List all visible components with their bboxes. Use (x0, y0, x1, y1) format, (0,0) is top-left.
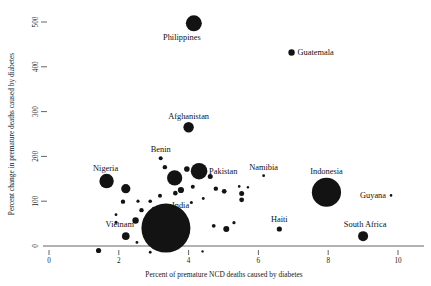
bubble-unlabeled-04 (184, 166, 190, 172)
y-axis-tick-label: 0 (32, 244, 40, 248)
x-axis-tick-label: 0 (47, 257, 51, 265)
y-axis-tick-label: 100 (32, 195, 40, 206)
bubble-unlabeled-19 (232, 221, 235, 224)
label-pakistan: Pakistan (209, 167, 238, 176)
bubble-unlabeled-18 (212, 224, 216, 228)
bubble-unlabeled-07 (191, 185, 195, 189)
y-axis-tick-label: 300 (32, 106, 40, 117)
bubble-unlabeled-03 (163, 165, 167, 169)
y-axis-tick-label: 200 (32, 151, 40, 162)
bubble-nigeria (99, 174, 113, 188)
bubble-south-africa (358, 231, 368, 241)
bubble-unlabeled-20 (223, 226, 229, 232)
bubble-unlabeled-25 (247, 186, 249, 188)
bubble-unlabeled-32 (115, 213, 118, 216)
bubble-chart-figure: 01002003004005000246810 PhilippinesGuate… (0, 0, 431, 286)
bubble-india (141, 204, 190, 253)
bubble-haiti (277, 226, 282, 231)
bubble-unlabeled-08 (178, 187, 184, 193)
bubble-unlabeled-12 (136, 200, 139, 203)
bubble-guatemala (288, 49, 294, 55)
x-axis-tick-label: 2 (117, 257, 121, 265)
label-namibia: Namibia (249, 163, 278, 172)
bubble-unlabeled-23 (239, 191, 244, 196)
bubble-unlabeled-27 (96, 248, 101, 253)
bubble-unlabeled-30 (190, 201, 193, 204)
label-haiti: Haiti (271, 215, 288, 224)
label-benin: Benin (151, 145, 172, 154)
bubble-unlabeled-10 (158, 194, 162, 198)
x-axis-tick-label: 8 (326, 257, 330, 265)
y-axis-title: Percent change in premature deaths cause… (7, 53, 16, 215)
y-axis-tick-label: 400 (32, 61, 40, 72)
bubble-unlabeled-29 (201, 250, 203, 252)
bubble-vietnam (122, 232, 130, 240)
label-india: India (172, 201, 189, 210)
scatter-plot-canvas: 01002003004005000246810 PhilippinesGuate… (0, 0, 431, 286)
y-axis-tick-label: 500 (32, 16, 40, 27)
bubble-unlabeled-09 (173, 191, 178, 196)
x-axis-title: Percent of premature NCD deaths caused b… (145, 270, 303, 279)
bubble-unlabeled-28 (149, 251, 152, 254)
bubble-unlabeled-02 (121, 184, 130, 193)
bubble-benin (159, 156, 163, 160)
label-guyana: Guyana (360, 191, 386, 200)
bubble-unlabeled-14 (139, 208, 143, 212)
bubble-unlabeled-24 (239, 197, 244, 202)
bubble-unlabeled-22 (238, 185, 241, 188)
bubble-pakistan (191, 163, 208, 180)
bubble-unlabeled-21 (222, 189, 227, 194)
bubble-unlabeled-01 (167, 170, 182, 185)
bubble-indonesia (312, 178, 341, 207)
label-south-africa: South Africa (344, 220, 387, 229)
x-axis-tick-label: 4 (187, 257, 191, 265)
bubble-unlabeled-06 (214, 186, 218, 190)
bubble-unlabeled-11 (148, 199, 152, 203)
bubble-guyana (390, 194, 393, 197)
bubble-unlabeled-31 (202, 197, 205, 200)
label-philippines: Philippines (163, 33, 201, 42)
label-nigeria: Nigeria (93, 164, 118, 173)
bubble-namibia (262, 174, 265, 177)
label-guatemala: Guatemala (298, 48, 335, 57)
bubble-unlabeled-26 (136, 241, 139, 244)
label-afghanistan: Afghanistan (168, 112, 210, 121)
bubble-unlabeled-15 (152, 207, 155, 210)
label-indonesia: Indonesia (310, 167, 343, 176)
bubble-afghanistan (183, 122, 193, 132)
bubble-philippines (186, 15, 202, 31)
x-axis-tick-label: 6 (257, 257, 261, 265)
bubble-unlabeled-13 (121, 199, 125, 203)
label-vietnam: Vietnam (106, 220, 135, 229)
x-axis-tick-label: 10 (394, 257, 402, 265)
data-points-group (96, 15, 392, 253)
